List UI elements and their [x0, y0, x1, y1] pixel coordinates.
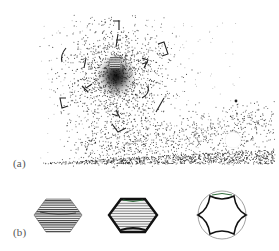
panel-b-label: (b): [13, 226, 26, 238]
figure: (a) (b): [0, 0, 279, 251]
hexagon-textured: [34, 199, 82, 232]
particle-cloud: [39, 15, 275, 169]
ring-concave-hexagon: [198, 191, 246, 239]
figure-artwork: [0, 0, 279, 251]
hexagon-outlined: [109, 199, 157, 232]
panel-a-label: (a): [13, 157, 26, 169]
